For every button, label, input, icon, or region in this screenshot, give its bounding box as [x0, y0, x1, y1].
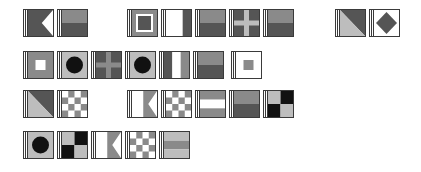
- flag-graphic: [24, 132, 53, 158]
- signal-flag-swallowtail-icon[interactable]: [23, 9, 54, 37]
- signal-flag-cross-icon[interactable]: [91, 51, 122, 79]
- signal-flag-swallowtail-split-icon[interactable]: [91, 131, 122, 159]
- signal-flag-cross-icon[interactable]: [229, 9, 260, 37]
- flag-hoist: [58, 91, 62, 117]
- flag-graphic: [92, 132, 121, 158]
- flag-graphic: [128, 10, 157, 36]
- flag-hoist: [264, 10, 268, 36]
- flag-hoist: [24, 52, 28, 78]
- flag-graphic: [264, 91, 293, 117]
- signal-flag-nested-squares-icon[interactable]: [127, 9, 158, 37]
- signal-flag-diagonal-icon[interactable]: [335, 9, 366, 37]
- flag-hoist: [24, 91, 28, 117]
- flag-hoist: [126, 132, 130, 158]
- signal-flag-checker-icon[interactable]: [161, 90, 192, 118]
- flag-hoist: [92, 52, 96, 78]
- flag-hoist: [196, 91, 200, 117]
- flag-hoist: [24, 10, 28, 36]
- signal-flag-swallowtail-split-icon[interactable]: [127, 90, 158, 118]
- flag-graphic: [24, 52, 53, 78]
- flag-graphic: [92, 52, 121, 78]
- flag-graphic: [58, 52, 87, 78]
- flag-graphic: [126, 132, 155, 158]
- flag-graphic: [264, 10, 293, 36]
- signal-flag-diagonal-icon[interactable]: [23, 90, 54, 118]
- flag-hoist: [126, 52, 130, 78]
- flag-hoist: [264, 91, 268, 117]
- flag-graphic: [160, 52, 189, 78]
- signal-flag-circle-icon[interactable]: [23, 131, 54, 159]
- signal-flag-vbands3-icon[interactable]: [161, 9, 192, 37]
- flag-graphic: [194, 52, 223, 78]
- flag-hoist: [232, 52, 236, 78]
- signal-flag-quarters-icon[interactable]: [263, 90, 294, 118]
- flag-hoist: [230, 10, 234, 36]
- signal-flag-hbands2-icon[interactable]: [263, 9, 294, 37]
- flag-hoist: [162, 10, 166, 36]
- flag-graphic: [126, 52, 155, 78]
- flag-graphic: [160, 132, 189, 158]
- signal-flag-hbands2-icon[interactable]: [229, 90, 260, 118]
- flag-hoist: [230, 91, 234, 117]
- flag-hoist: [128, 91, 132, 117]
- signal-flag-diamond-icon[interactable]: [369, 9, 400, 37]
- flag-hoist: [196, 10, 200, 36]
- flag-graphic: [336, 10, 365, 36]
- flag-graphic: [230, 10, 259, 36]
- flag-graphic: [232, 52, 261, 78]
- flag-graphic: [370, 10, 399, 36]
- signal-flag-hbands2-icon[interactable]: [195, 9, 226, 37]
- signal-flag-circle-icon[interactable]: [57, 51, 88, 79]
- signal-flag-quarters-icon[interactable]: [57, 131, 88, 159]
- flag-graphic: [58, 91, 87, 117]
- flag-hoist: [160, 132, 164, 158]
- flag-hoist: [58, 10, 62, 36]
- flag-graphic: [196, 10, 225, 36]
- signal-flag-center-square-icon[interactable]: [231, 51, 262, 79]
- signal-flag-hbands3-icon[interactable]: [195, 90, 226, 118]
- signal-flag-checker-icon[interactable]: [125, 131, 156, 159]
- flag-graphic: [162, 10, 191, 36]
- flag-hoist: [160, 52, 164, 78]
- flag-hoist: [370, 10, 374, 36]
- flag-hoist: [162, 91, 166, 117]
- flag-graphic: [24, 10, 53, 36]
- flag-hoist: [336, 10, 340, 36]
- flag-graphic: [196, 91, 225, 117]
- flag-graphic: [24, 91, 53, 117]
- flag-hoist: [58, 132, 62, 158]
- signal-flag-checker-icon[interactable]: [57, 90, 88, 118]
- flag-hoist: [58, 52, 62, 78]
- flag-hoist: [24, 132, 28, 158]
- flag-graphic: [128, 91, 157, 117]
- signal-flag-center-square-icon[interactable]: [23, 51, 54, 79]
- flag-graphic: [58, 132, 87, 158]
- signal-flag-vbands3-icon[interactable]: [159, 51, 190, 79]
- flag-hoist: [194, 52, 198, 78]
- signal-flag-circle-icon[interactable]: [125, 51, 156, 79]
- signal-flag-hbands3-icon[interactable]: [159, 131, 190, 159]
- flag-graphic: [230, 91, 259, 117]
- signal-flag-hbands2-icon[interactable]: [193, 51, 224, 79]
- flag-graphic: [58, 10, 87, 36]
- flag-hoist: [128, 10, 132, 36]
- signal-flag-hbands2-icon[interactable]: [57, 9, 88, 37]
- flag-hoist: [92, 132, 96, 158]
- flag-graphic: [162, 91, 191, 117]
